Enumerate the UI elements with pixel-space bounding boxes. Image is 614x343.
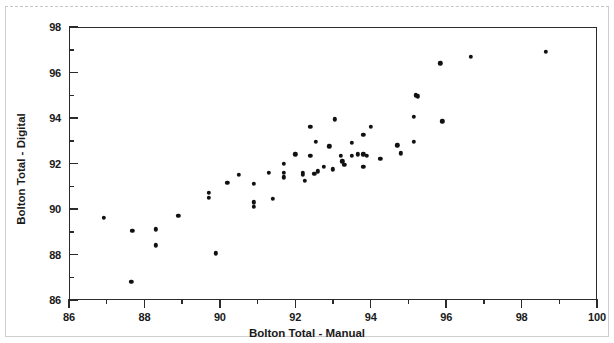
y-axis-tick-minor xyxy=(69,49,74,51)
x-axis-tick-major xyxy=(68,299,70,308)
x-axis-tick-minor xyxy=(483,299,485,304)
x-axis-tick-label: 86 xyxy=(51,311,87,323)
x-axis-tick-label: 96 xyxy=(428,311,464,323)
x-axis-tick-label: 94 xyxy=(353,311,389,323)
x-axis-tick-major xyxy=(445,299,447,308)
scatter-plot-figure: 8688909294969886889092949698100 Bolton T… xyxy=(0,0,614,343)
x-axis-tick-major xyxy=(295,299,297,308)
y-axis-tick-minor xyxy=(69,95,74,97)
x-axis-tick-label: 92 xyxy=(277,311,313,323)
x-axis-tick-minor xyxy=(408,299,410,304)
y-axis-tick-major xyxy=(69,72,78,74)
x-axis-tick-major xyxy=(219,299,221,308)
y-axis-tick-major xyxy=(69,208,78,210)
x-axis-tick-minor xyxy=(257,299,259,304)
x-axis-tick-major xyxy=(521,299,523,308)
x-axis-tick-minor xyxy=(332,299,334,304)
x-axis-tick-major xyxy=(144,299,146,308)
x-axis-title: Bolton Total - Manual xyxy=(0,327,614,339)
y-axis-tick-major xyxy=(69,117,78,119)
y-axis-tick-minor xyxy=(69,231,74,233)
y-axis-tick-label: 86 xyxy=(31,294,61,306)
x-axis-tick-major xyxy=(596,299,598,308)
x-axis-tick-minor xyxy=(559,299,561,304)
y-axis-tick-minor xyxy=(69,186,74,188)
y-axis-tick-label: 94 xyxy=(31,112,61,124)
x-axis-tick-label: 88 xyxy=(126,311,162,323)
y-axis-title: Bolton Total - Digital xyxy=(15,69,27,269)
y-axis-tick-label: 92 xyxy=(31,158,61,170)
plot-area-frame xyxy=(69,27,597,300)
y-axis-tick-major xyxy=(69,299,78,301)
x-axis-tick-minor xyxy=(106,299,108,304)
y-axis-tick-minor xyxy=(69,140,74,142)
y-axis-tick-label: 88 xyxy=(31,249,61,261)
y-axis-tick-label: 90 xyxy=(31,203,61,215)
y-axis-tick-major xyxy=(69,163,78,165)
x-axis-tick-label: 98 xyxy=(504,311,540,323)
y-axis-tick-major xyxy=(69,254,78,256)
x-axis-tick-label: 100 xyxy=(579,311,614,323)
y-axis-tick-label: 96 xyxy=(31,67,61,79)
x-axis-tick-label: 90 xyxy=(202,311,238,323)
y-axis-tick-label: 98 xyxy=(31,21,61,33)
y-axis-tick-minor xyxy=(69,277,74,279)
y-axis-tick-major xyxy=(69,26,78,28)
x-axis-tick-minor xyxy=(181,299,183,304)
x-axis-tick-major xyxy=(370,299,372,308)
